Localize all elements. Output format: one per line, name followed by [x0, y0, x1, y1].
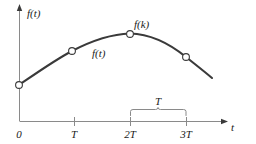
- figure-sampled-signal: f(t) t 0 T 2T 3T f(k) f(t) T: [0, 0, 256, 144]
- x-tick-label-2T: 2T: [124, 128, 137, 140]
- x-tick-label-0: 0: [16, 128, 22, 140]
- period-brace-label: T: [155, 95, 162, 107]
- x-tick-label-T: T: [71, 128, 78, 140]
- curve-label-ft: f(t): [92, 47, 106, 60]
- y-axis-label: f(t): [27, 7, 41, 20]
- y-axis-arrow-icon: [17, 4, 22, 11]
- period-brace: [131, 108, 187, 116]
- period-brace-path: [131, 108, 187, 116]
- sample-marker-0: [16, 82, 23, 89]
- sample-label-fk: f(k): [134, 18, 150, 31]
- x-axis-arrow-icon: [221, 119, 228, 124]
- x-tick-label-3T: 3T: [179, 128, 193, 140]
- sample-marker-T: [69, 48, 76, 55]
- sample-marker-3T: [183, 54, 190, 61]
- x-axis-label: t: [231, 121, 235, 133]
- sample-marker-2T: [127, 31, 134, 38]
